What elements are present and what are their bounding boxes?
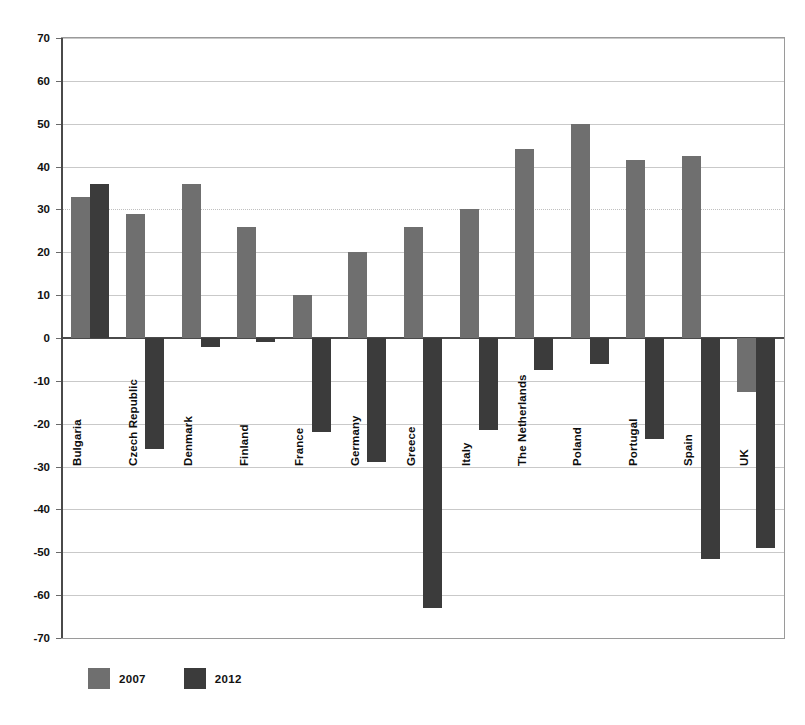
bar-finland-2007 bbox=[237, 227, 256, 338]
category-label-germany: Germany bbox=[349, 415, 361, 466]
legend-label-2012: 2012 bbox=[215, 673, 242, 685]
bar-italy-2012 bbox=[479, 338, 498, 430]
chart-legend: 2007 2012 bbox=[88, 668, 242, 689]
plot-top-edge bbox=[61, 37, 785, 38]
bar-poland-2007 bbox=[571, 124, 590, 338]
y-tick-label: 20 bbox=[0, 246, 50, 258]
bar-france-2007 bbox=[293, 295, 312, 338]
category-label-the-netherlands: The Netherlands bbox=[516, 374, 528, 466]
y-tick-label: 30 bbox=[0, 203, 50, 215]
gridline-50 bbox=[62, 124, 784, 125]
category-label-uk: UK bbox=[738, 449, 750, 466]
legend-swatch-2012-icon bbox=[184, 668, 206, 689]
gridline-40 bbox=[62, 167, 784, 168]
y-tick-label: 70 bbox=[0, 32, 50, 44]
bar-bulgaria-2012 bbox=[90, 184, 109, 338]
gridline-70 bbox=[62, 38, 784, 39]
bar-portugal-2007 bbox=[626, 160, 645, 338]
bar-poland-2012 bbox=[590, 338, 609, 364]
bar-portugal-2012 bbox=[645, 338, 664, 439]
legend-item-2012[interactable]: 2012 bbox=[184, 668, 242, 689]
y-tick-label: -30 bbox=[0, 461, 50, 473]
bar-denmark-2012 bbox=[201, 338, 220, 347]
legend-item-2007[interactable]: 2007 bbox=[88, 668, 146, 689]
y-tick-label: -60 bbox=[0, 589, 50, 601]
plot-right-edge bbox=[784, 37, 785, 639]
gridline-30 bbox=[62, 209, 784, 211]
category-label-portugal: Portugal bbox=[627, 419, 639, 466]
y-tick-label: 40 bbox=[0, 161, 50, 173]
bar-spain-2007 bbox=[682, 156, 701, 338]
y-tick-label: -70 bbox=[0, 632, 50, 644]
gridline-10 bbox=[62, 295, 784, 296]
bar-uk-2012 bbox=[756, 338, 775, 548]
bar-greece-2007 bbox=[404, 227, 423, 338]
bar-france-2012 bbox=[312, 338, 331, 432]
bar-finland-2012 bbox=[256, 338, 275, 342]
category-label-finland: Finland bbox=[238, 424, 250, 466]
category-label-poland: Poland bbox=[571, 427, 583, 466]
gridline-20 bbox=[62, 252, 784, 253]
bar-germany-2007 bbox=[348, 252, 367, 338]
y-tick-label: -40 bbox=[0, 503, 50, 515]
bar-czech-republic-2007 bbox=[126, 214, 145, 338]
legend-label-2007: 2007 bbox=[119, 673, 146, 685]
category-label-denmark: Denmark bbox=[182, 416, 194, 466]
y-tick-label: -20 bbox=[0, 418, 50, 430]
bar-bulgaria-2007 bbox=[71, 197, 90, 338]
y-tick-label: 0 bbox=[0, 332, 50, 344]
category-label-spain: Spain bbox=[682, 434, 694, 466]
bar-spain-2012 bbox=[701, 338, 720, 559]
category-label-france: France bbox=[293, 428, 305, 466]
category-label-bulgaria: Bulgaria bbox=[71, 419, 83, 466]
bar-the-netherlands-2012 bbox=[534, 338, 553, 370]
bar-germany-2012 bbox=[367, 338, 386, 462]
bar-denmark-2007 bbox=[182, 184, 201, 338]
bar-greece-2012 bbox=[423, 338, 442, 608]
y-axis-line bbox=[61, 37, 63, 639]
bar-czech-republic-2012 bbox=[145, 338, 164, 449]
legend-swatch-2007-icon bbox=[88, 668, 110, 689]
gridline-60 bbox=[62, 81, 784, 82]
bar-italy-2007 bbox=[460, 209, 479, 338]
y-tick-label: 50 bbox=[0, 118, 50, 130]
y-tick-label: -50 bbox=[0, 546, 50, 558]
y-tick-label: -10 bbox=[0, 375, 50, 387]
bar-uk-2007 bbox=[737, 338, 756, 392]
category-label-italy: Italy bbox=[460, 442, 472, 466]
bar-the-netherlands-2007 bbox=[515, 149, 534, 338]
y-tick-label: 10 bbox=[0, 289, 50, 301]
bar-chart: 706050403020100-10-20-30-40-50-60-70 Bul… bbox=[0, 0, 805, 725]
plot-bottom-edge bbox=[61, 638, 785, 639]
category-label-czech-republic: Czech Republic bbox=[127, 379, 139, 466]
y-tick-label: 60 bbox=[0, 75, 50, 87]
category-label-greece: Greece bbox=[405, 426, 417, 466]
